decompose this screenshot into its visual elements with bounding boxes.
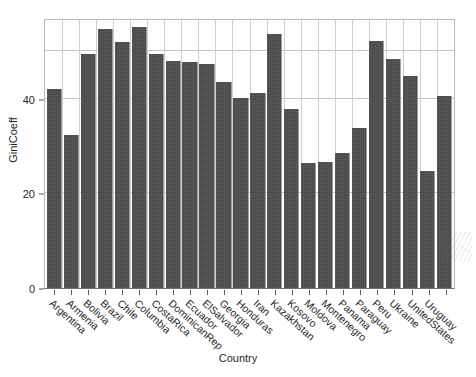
bar-chart-figure: GiniCoeff 02040 ArgentinaArmeniaBoliviaB… (0, 0, 476, 377)
x-label-slot: Paraguay (352, 290, 369, 350)
bar[interactable] (318, 162, 333, 288)
bar[interactable] (81, 54, 96, 288)
bar-slot (97, 20, 114, 288)
bar-slot (385, 20, 402, 288)
bar[interactable] (233, 98, 248, 288)
x-label-slot: Armenia (62, 290, 79, 350)
bar-slot (436, 20, 453, 288)
x-label-slot: CostaRica (147, 290, 164, 350)
bar[interactable] (386, 59, 401, 288)
y-axis-title: GiniCoeff (7, 85, 19, 195)
x-label-slot: Georgia (215, 290, 232, 350)
x-label-slot: Kazakhstan (267, 290, 284, 350)
y-axis: GiniCoeff 02040 (0, 19, 44, 290)
bar[interactable] (199, 64, 214, 288)
bar[interactable] (216, 82, 231, 288)
x-label-slot: Honduras (233, 290, 250, 350)
bar-slot (216, 20, 233, 288)
bar[interactable] (115, 42, 130, 288)
x-label-slot: Bolivia (79, 290, 96, 350)
bar[interactable] (166, 61, 181, 288)
bar[interactable] (335, 153, 350, 288)
bar-slot (351, 20, 368, 288)
bar[interactable] (132, 27, 147, 288)
bar-slot (368, 20, 385, 288)
x-label-slot: Brazil (96, 290, 113, 350)
bar-slot (80, 20, 97, 288)
bar[interactable] (437, 96, 452, 288)
x-label-slot: Panama (335, 290, 352, 350)
bar-slot (266, 20, 283, 288)
bar-slot (148, 20, 165, 288)
bar[interactable] (267, 34, 282, 288)
bar[interactable] (182, 62, 197, 288)
bar[interactable] (420, 171, 435, 288)
bar-slot (419, 20, 436, 288)
y-tick-label: 20 (23, 189, 35, 200)
x-label-slot: DominicanRep (164, 290, 181, 350)
bar[interactable] (149, 54, 164, 288)
x-label-slot: Moldova (301, 290, 318, 350)
x-label-slot: Peru (369, 290, 386, 350)
bar-slot (300, 20, 317, 288)
y-tick-label: 40 (23, 94, 35, 105)
bar-slot (182, 20, 199, 288)
bar-slot (283, 20, 300, 288)
x-label-slot: Chile (113, 290, 130, 350)
x-label-slot: Columbia (130, 290, 147, 350)
bar-slot (317, 20, 334, 288)
bar[interactable] (352, 128, 367, 288)
x-label-slot (437, 290, 454, 350)
bar-slot (165, 20, 182, 288)
y-tick-label: 0 (29, 284, 35, 295)
x-label-slot: Ukraine (386, 290, 403, 350)
bar[interactable] (284, 109, 299, 288)
x-label-slot: Montenegro (318, 290, 335, 350)
bar-slot (114, 20, 131, 288)
bar[interactable] (301, 163, 316, 288)
x-label-slot: Iran (250, 290, 267, 350)
bar-slot (232, 20, 249, 288)
x-axis-title: Country (0, 352, 476, 364)
bar[interactable] (64, 135, 79, 288)
bar[interactable] (250, 93, 265, 288)
bar-slot (63, 20, 80, 288)
x-label-slot: UnitedStates (403, 290, 420, 350)
bar[interactable] (98, 29, 113, 288)
bar-slot (402, 20, 419, 288)
x-tick-labels: ArgentinaArmeniaBoliviaBrazilChileColumb… (44, 290, 455, 350)
bar-slot (131, 20, 148, 288)
bar-slot (249, 20, 266, 288)
bar[interactable] (369, 41, 384, 288)
x-label-slot: Ecuador (181, 290, 198, 350)
bar[interactable] (47, 89, 62, 288)
plot-area (44, 19, 455, 289)
bar-series (45, 20, 454, 288)
bar[interactable] (403, 76, 418, 288)
x-label-slot: Kosovo (284, 290, 301, 350)
bar-slot (334, 20, 351, 288)
x-label-slot: Argentina (45, 290, 62, 350)
x-label-slot: Uruguay (420, 290, 437, 350)
x-label-slot: ElSalvador (198, 290, 215, 350)
bar-slot (199, 20, 216, 288)
bar-slot (46, 20, 63, 288)
